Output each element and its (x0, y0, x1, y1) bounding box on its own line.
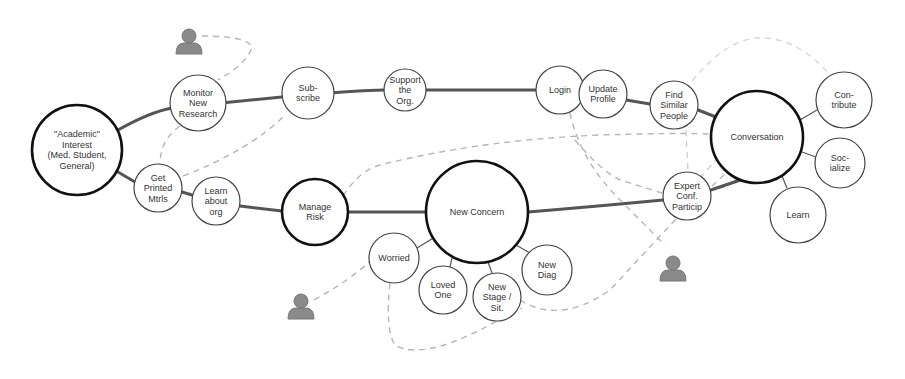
node-label: the (399, 85, 412, 95)
node-diag[interactable]: NewDiag (522, 245, 572, 295)
node-label: tribute (831, 100, 856, 110)
user-icon (288, 294, 314, 319)
nodes-layer: "Academic"Interest(Med. Student,General)… (32, 66, 872, 321)
node-label: New (488, 282, 507, 292)
node-label: One (434, 290, 451, 300)
node-learnorg[interactable]: Learnaboutorg (192, 177, 240, 225)
node-find[interactable]: FindSimilarPeople (650, 81, 698, 129)
node-support[interactable]: SupporttheOrg. (384, 69, 426, 111)
node-label: Manage (299, 202, 332, 212)
node-label: scribe (296, 93, 320, 103)
node-subscribe[interactable]: Sub-scribe (282, 67, 334, 119)
node-label: People (660, 111, 688, 121)
node-label: about (205, 196, 228, 206)
node-label: New (538, 260, 557, 270)
node-label: Support (389, 75, 421, 85)
node-label: "Academic" (54, 129, 100, 139)
node-stage[interactable]: NewStage /Sit. (473, 273, 521, 321)
node-monitor[interactable]: MonitorNewResearch (170, 75, 226, 131)
node-label: Conf. (676, 191, 698, 201)
node-label: Similar (660, 100, 688, 110)
node-label: New Concern (450, 207, 505, 217)
node-label: Risk (306, 212, 324, 222)
node-label: (Med. Student, (47, 150, 106, 160)
node-learn[interactable]: Learn (770, 187, 826, 243)
node-label: Get (151, 173, 166, 183)
node-label: Learn (786, 210, 809, 220)
node-label: New (189, 98, 208, 108)
node-label: Worried (378, 253, 409, 263)
node-label: Loved (431, 280, 456, 290)
user-icon (176, 29, 202, 54)
node-label: Research (179, 109, 218, 119)
node-concern[interactable]: New Concern (426, 161, 528, 263)
node-label: Soc- (831, 153, 850, 163)
node-label: Printed (144, 183, 173, 193)
node-label: Stage / (483, 292, 512, 302)
node-worried[interactable]: Worried (369, 233, 419, 283)
node-label: Monitor (183, 88, 213, 98)
node-update[interactable]: UpdateProfile (579, 70, 627, 118)
node-label: Diag (538, 270, 557, 280)
node-academic[interactable]: "Academic"Interest(Med. Student,General) (32, 105, 122, 195)
node-label: General) (59, 161, 94, 171)
node-label: Login (549, 85, 571, 95)
node-label: ialize (830, 163, 851, 173)
node-printed[interactable]: GetPrintedMtrls (134, 164, 182, 212)
node-label: Learn (204, 186, 227, 196)
node-label: Find (665, 90, 683, 100)
node-label: Org. (396, 96, 414, 106)
node-label: Particip (672, 202, 702, 212)
node-label: Update (588, 84, 617, 94)
node-contribute[interactable]: Con-tribute (816, 72, 872, 128)
node-label: Conversation (730, 132, 783, 142)
node-login[interactable]: Login (536, 66, 584, 114)
node-label: Profile (590, 94, 616, 104)
node-label: org (209, 207, 222, 217)
node-conversation[interactable]: Conversation (711, 91, 803, 183)
node-label: Mtrls (148, 194, 168, 204)
user-icon (660, 256, 686, 281)
node-loved[interactable]: LovedOne (419, 266, 467, 314)
node-label: Con- (834, 90, 854, 100)
node-label: Interest (62, 140, 93, 150)
node-label: Sit. (490, 303, 503, 313)
node-label: Expert (674, 181, 701, 191)
node-socialize[interactable]: Soc-ialize (815, 138, 865, 188)
node-label: Sub- (298, 83, 317, 93)
node-expert[interactable]: ExpertConf.Particip (663, 172, 711, 220)
journey-diagram: "Academic"Interest(Med. Student,General)… (0, 0, 905, 379)
node-risk[interactable]: ManageRisk (282, 179, 348, 245)
